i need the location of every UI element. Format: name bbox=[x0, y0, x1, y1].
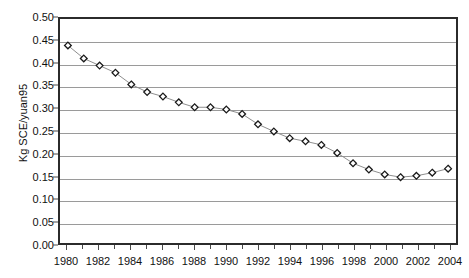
data-point-marker bbox=[223, 106, 230, 113]
y-axis-tick-label: 0.10 bbox=[18, 193, 54, 205]
x-axis-tick-mark bbox=[418, 245, 419, 250]
x-axis-tick-mark bbox=[242, 245, 243, 249]
x-axis-tick-label: 1994 bbox=[278, 255, 302, 267]
data-point-marker bbox=[318, 142, 325, 149]
chart-screenshot: Kg SCE/yuan95 0.000.050.100.150.200.250.… bbox=[0, 0, 469, 278]
data-point-marker bbox=[239, 111, 246, 118]
x-axis-tick-mark bbox=[306, 245, 307, 249]
y-axis-tick-label: 0.20 bbox=[18, 148, 54, 160]
x-axis-tick-label: 1992 bbox=[246, 255, 270, 267]
y-axis-tick-label: 0.15 bbox=[18, 171, 54, 183]
x-axis-tick-mark bbox=[434, 245, 435, 249]
x-axis-tick-mark bbox=[354, 245, 355, 250]
data-point-marker bbox=[96, 62, 103, 69]
x-axis-tick-mark bbox=[178, 245, 179, 249]
y-axis-tick-label: 0.00 bbox=[18, 239, 54, 251]
data-point-marker bbox=[160, 93, 167, 100]
x-axis-tick-label: 2002 bbox=[406, 255, 430, 267]
y-axis-tick-label: 0.05 bbox=[18, 216, 54, 228]
y-axis-tick-label: 0.50 bbox=[18, 11, 54, 23]
data-point-marker bbox=[429, 169, 436, 176]
x-axis-tick-mark bbox=[386, 245, 387, 250]
data-point-marker bbox=[413, 172, 420, 179]
x-axis-tick-mark bbox=[210, 245, 211, 249]
x-axis-tick-label: 1980 bbox=[54, 255, 78, 267]
x-axis-tick-mark bbox=[114, 245, 115, 249]
data-point-marker bbox=[381, 171, 388, 178]
data-point-marker bbox=[191, 104, 198, 111]
x-axis-tick-mark bbox=[402, 245, 403, 249]
x-axis-tick-label: 1996 bbox=[310, 255, 334, 267]
plot-area bbox=[58, 17, 458, 245]
data-point-marker bbox=[255, 121, 262, 128]
y-axis-tick-label: 0.45 bbox=[18, 34, 54, 46]
x-axis-tick-mark bbox=[290, 245, 291, 250]
x-axis-tick-mark bbox=[258, 245, 259, 250]
data-point-marker bbox=[334, 150, 341, 157]
x-axis-tick-label: 1986 bbox=[150, 255, 174, 267]
x-axis-tick-label: 1998 bbox=[342, 255, 366, 267]
y-axis-tick-label: 0.40 bbox=[18, 57, 54, 69]
x-axis-tick-mark bbox=[450, 245, 451, 250]
data-point-marker bbox=[144, 89, 151, 96]
x-axis-tick-mark bbox=[370, 245, 371, 249]
x-axis-tick-mark bbox=[162, 245, 163, 250]
plot-inner bbox=[60, 19, 456, 243]
x-axis-tick-mark bbox=[146, 245, 147, 249]
x-axis-tick-mark bbox=[322, 245, 323, 250]
data-point-marker bbox=[286, 135, 293, 142]
x-axis-tick-label: 2004 bbox=[438, 255, 462, 267]
data-point-marker bbox=[397, 174, 404, 181]
data-point-marker bbox=[175, 99, 182, 106]
data-point-marker bbox=[207, 104, 214, 111]
x-axis-tick-label: 1984 bbox=[118, 255, 142, 267]
y-axis-tick-label: 0.25 bbox=[18, 125, 54, 137]
x-axis-tick-mark bbox=[274, 245, 275, 249]
x-axis-tick-mark bbox=[82, 245, 83, 249]
x-axis-tick-label: 1982 bbox=[86, 255, 110, 267]
data-point-marker bbox=[366, 166, 373, 173]
x-axis-tick-label: 1988 bbox=[182, 255, 206, 267]
x-axis-tick-mark bbox=[226, 245, 227, 250]
y-axis-tick-label: 0.30 bbox=[18, 102, 54, 114]
x-axis-tick-mark bbox=[98, 245, 99, 250]
data-point-marker bbox=[302, 138, 309, 145]
data-point-marker bbox=[270, 128, 277, 135]
x-axis-tick-mark bbox=[66, 245, 67, 250]
y-axis-tick-labels: 0.000.050.100.150.200.250.300.350.400.45… bbox=[18, 17, 54, 245]
x-axis-tick-mark bbox=[130, 245, 131, 250]
x-axis-tick-mark bbox=[194, 245, 195, 250]
data-series-energy-intensity bbox=[60, 19, 456, 243]
data-point-marker bbox=[445, 165, 452, 172]
x-axis-tick-mark bbox=[338, 245, 339, 249]
y-axis-tick-label: 0.35 bbox=[18, 79, 54, 91]
series-line bbox=[68, 45, 448, 177]
x-axis-tick-label: 1990 bbox=[214, 255, 238, 267]
data-point-marker bbox=[350, 160, 357, 167]
x-axis-tick-label: 2000 bbox=[374, 255, 398, 267]
